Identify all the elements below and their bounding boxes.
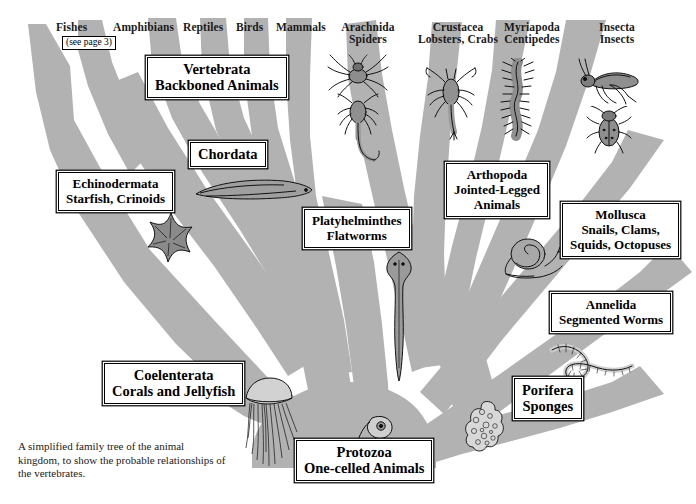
taxon-name-coelenterata: Coelenterata <box>112 367 235 383</box>
family-tree-figure: Fishes Amphibians Reptiles Birds Mammals… <box>0 0 696 504</box>
beetle-illustration <box>586 106 632 154</box>
taxon-box-echinodermata[interactable]: Echinodermata Starfish, Crinoids <box>58 172 173 211</box>
flatworm-illustration <box>382 248 416 384</box>
taxon-box-platyhelminthes[interactable]: Platyhelminthes Flatworms <box>304 209 410 248</box>
taxon-name-mollusca: Mollusca <box>570 207 671 222</box>
taxon-common-protozoa: One-celled Animals <box>304 460 424 476</box>
tip-label-crustacea: Crustacea Lobsters, Crabs <box>414 21 502 45</box>
taxon-common-arthopoda-2: Animals <box>454 197 540 212</box>
tip-common-insecta: Insects <box>600 33 635 45</box>
taxon-box-protozoa[interactable]: Protozoa One-celled Animals <box>296 440 432 481</box>
scorpion-illustration <box>336 92 382 164</box>
tip-common-crustacea: Lobsters, Crabs <box>418 33 498 45</box>
taxon-box-arthopoda[interactable]: Arthopoda Jointed-Legged Animals <box>446 163 548 217</box>
tip-label-mammals: Mammals <box>276 21 326 33</box>
tip-label-arachnida: Arachnida Spiders <box>330 21 406 45</box>
jellyfish-illustration <box>240 376 298 468</box>
grasshopper-illustration <box>576 56 644 106</box>
snail-illustration <box>500 236 564 282</box>
taxon-box-mollusca[interactable]: Mollusca Snails, Clams, Squids, Octopuse… <box>562 203 679 257</box>
taxon-common-coelenterata: Corals and Jellyfish <box>112 383 235 399</box>
taxon-common-porifera: Sponges <box>522 398 574 414</box>
figure-caption: A simplified family tree of the animal k… <box>18 440 228 481</box>
taxon-name-arthopoda: Arthopoda <box>454 167 540 182</box>
lancelet-illustration <box>192 176 314 202</box>
tip-name-arachnida: Arachnida <box>341 21 394 33</box>
tip-label-amphibians: Amphibians <box>113 21 174 33</box>
taxon-box-porifera[interactable]: Porifera Sponges <box>514 378 582 419</box>
taxon-common-platyhelminthes: Flatworms <box>312 228 402 243</box>
taxon-name-chordata: Chordata <box>198 146 258 162</box>
tip-label-fishes: Fishes <box>56 21 87 33</box>
sponge-illustration <box>462 398 510 458</box>
taxon-box-coelenterata[interactable]: Coelenterata Corals and Jellyfish <box>104 363 243 404</box>
tip-label-reptiles: Reptiles <box>183 21 223 33</box>
taxon-name-annelida: Annelida <box>559 297 663 312</box>
taxon-name-vertebrata: Vertebrata <box>155 61 279 77</box>
taxon-name-porifera: Porifera <box>522 382 574 398</box>
taxon-name-platyhelminthes: Platyhelminthes <box>312 213 402 228</box>
tip-label-myriapoda: Myriapoda Centipedes <box>494 21 570 45</box>
taxon-box-chordata[interactable]: Chordata <box>190 142 266 167</box>
tip-label-insecta: Insecta Insects <box>584 21 650 45</box>
starfish-illustration <box>140 210 200 270</box>
taxon-name-echinodermata: Echinodermata <box>66 176 165 191</box>
taxon-common-echinodermata: Starfish, Crinoids <box>66 191 165 206</box>
tip-common-arachnida: Spiders <box>349 33 387 45</box>
crustacean-illustration <box>424 66 478 142</box>
centipede-illustration <box>498 58 538 144</box>
tip-name-myriapoda: Myriapoda <box>504 21 560 33</box>
taxon-name-protozoa: Protozoa <box>304 444 424 460</box>
taxon-box-vertebrata[interactable]: Vertebrata Backboned Animals <box>147 57 287 98</box>
tip-label-birds: Birds <box>236 21 263 33</box>
taxon-box-annelida[interactable]: Annelida Segmented Worms <box>551 293 671 332</box>
taxon-common-mollusca-2: Squids, Octopuses <box>570 237 671 252</box>
taxon-common-mollusca-1: Snails, Clams, <box>570 222 671 237</box>
taxon-common-arthopoda-1: Jointed-Legged <box>454 182 540 197</box>
tip-common-myriapoda: Centipedes <box>504 33 559 45</box>
tip-name-insecta: Insecta <box>599 21 635 33</box>
tip-name-crustacea: Crustacea <box>433 21 484 33</box>
taxon-common-vertebrata: Backboned Animals <box>155 77 279 93</box>
see-page-note[interactable]: (see page 3) <box>62 36 116 50</box>
taxon-common-annelida: Segmented Worms <box>559 312 663 327</box>
